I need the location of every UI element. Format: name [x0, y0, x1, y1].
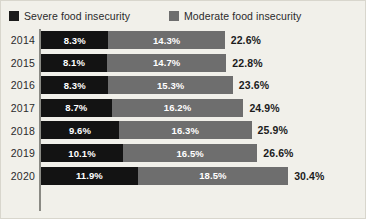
bar-total-label: 22.6% [231, 31, 261, 49]
bar-row: 20168.3%15.3%23.6% [1, 74, 366, 97]
legend-item-severe[interactable]: Severe food insecurity [9, 5, 130, 27]
bar-segment-severe[interactable]: 8.3% [41, 76, 108, 94]
legend-item-moderate[interactable]: Moderate food insecurity [169, 5, 301, 27]
bar-value-severe: 8.1% [63, 57, 85, 68]
stacked-bar: 11.9%18.5% [41, 167, 288, 185]
bar-value-severe: 8.3% [64, 80, 86, 91]
bar-row: 20158.1%14.7%22.8% [1, 52, 366, 75]
bar-segment-severe[interactable]: 9.6% [41, 121, 119, 139]
year-label-2018: 2018 [1, 119, 35, 142]
bar-total-label: 22.8% [232, 54, 262, 72]
bar-segment-moderate[interactable]: 16.5% [123, 144, 257, 162]
bar-value-severe: 8.3% [64, 35, 86, 46]
bar-segment-moderate[interactable]: 14.3% [108, 31, 224, 49]
bar-segment-severe[interactable]: 8.3% [41, 31, 108, 49]
year-label-2017: 2017 [1, 97, 35, 120]
bar-value-moderate: 16.2% [164, 102, 191, 113]
bar-total-label: 23.6% [239, 76, 269, 94]
stacked-bar: 8.3%14.3% [41, 31, 225, 49]
bar-row: 20148.3%14.3%22.6% [1, 29, 366, 52]
bar-segment-moderate[interactable]: 14.7% [107, 54, 227, 72]
bar-total-label: 26.6% [263, 144, 293, 162]
legend-label-severe: Severe food insecurity [24, 10, 130, 22]
year-label-2020: 2020 [1, 165, 35, 188]
bar-row: 202011.9%18.5%30.4% [1, 165, 366, 188]
bar-row: 201910.1%16.5%26.6% [1, 142, 366, 165]
stacked-bar: 9.6%16.3% [41, 121, 252, 139]
bar-total-label: 25.9% [258, 121, 288, 139]
bar-segment-moderate[interactable]: 18.5% [138, 167, 288, 185]
bar-value-severe: 10.1% [68, 148, 95, 159]
bar-value-moderate: 16.3% [172, 125, 199, 136]
bar-value-moderate: 15.3% [157, 80, 184, 91]
bar-value-moderate: 18.5% [199, 170, 226, 181]
bar-segment-moderate[interactable]: 16.3% [119, 121, 252, 139]
year-label-2015: 2015 [1, 52, 35, 75]
bar-total-label: 30.4% [294, 167, 324, 185]
square-swatch-icon [9, 11, 19, 21]
bar-value-moderate: 14.3% [153, 35, 180, 46]
bar-segment-severe[interactable]: 11.9% [41, 167, 138, 185]
bar-value-severe: 9.6% [69, 125, 91, 136]
bar-row: 20178.7%16.2%24.9% [1, 97, 366, 120]
bar-value-severe: 8.7% [65, 102, 87, 113]
year-label-2016: 2016 [1, 74, 35, 97]
bar-segment-severe[interactable]: 8.7% [41, 99, 112, 117]
plot-area: 20148.3%14.3%22.6%20158.1%14.7%22.8%2016… [1, 29, 366, 213]
year-label-2019: 2019 [1, 142, 35, 165]
stacked-bar: 8.1%14.7% [41, 54, 226, 72]
stacked-bar-chart: Severe food insecurity Moderate food ins… [0, 0, 366, 219]
bar-value-moderate: 14.7% [153, 57, 180, 68]
square-swatch-icon [169, 11, 179, 21]
stacked-bar: 8.3%15.3% [41, 76, 233, 94]
bar-row: 20189.6%16.3%25.9% [1, 119, 366, 142]
stacked-bar: 8.7%16.2% [41, 99, 243, 117]
chart-legend: Severe food insecurity Moderate food ins… [1, 5, 366, 27]
legend-label-moderate: Moderate food insecurity [184, 10, 301, 22]
bar-total-label: 24.9% [249, 99, 279, 117]
bar-value-moderate: 16.5% [176, 148, 203, 159]
bar-segment-severe[interactable]: 8.1% [41, 54, 107, 72]
bar-value-severe: 11.9% [76, 170, 103, 181]
stacked-bar: 10.1%16.5% [41, 144, 257, 162]
bar-segment-moderate[interactable]: 16.2% [112, 99, 244, 117]
bar-segment-moderate[interactable]: 15.3% [108, 76, 232, 94]
year-label-2014: 2014 [1, 29, 35, 52]
bar-segment-severe[interactable]: 10.1% [41, 144, 123, 162]
